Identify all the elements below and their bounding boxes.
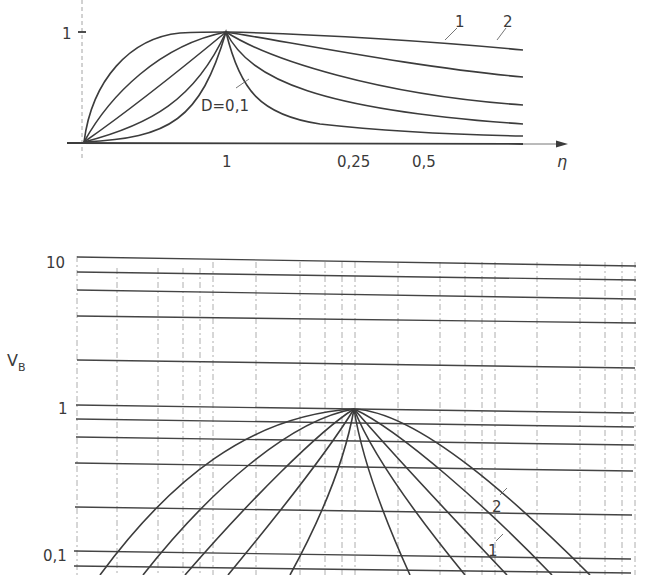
bottom-y-tick-label-1: 1 [58, 400, 68, 418]
bottom-y-axis-subscript: B [18, 361, 26, 374]
bottom-curves [100, 409, 590, 575]
top-x-tick-label-05: 0,5 [412, 153, 436, 171]
bottom-curve-1-leader [496, 534, 503, 541]
top-x-axis-label-eta: η [557, 152, 567, 171]
top-x-tick-label-1: 1 [222, 153, 232, 171]
chart-svg: 1 1 0,25 0,5 η D=0,1 1 2 [0, 0, 665, 575]
bottom-label-curve-1: 1 [488, 542, 498, 560]
bottom-chart: 10 1 0,1 V B 2 1 [7, 254, 636, 575]
top-chart: 1 1 0,25 0,5 η D=0,1 1 2 [62, 0, 568, 171]
top-x-tick-label-025: 0,25 [337, 153, 370, 171]
top-curve-d01 [84, 32, 523, 142]
bottom-y-tick-label-10: 10 [46, 254, 65, 272]
bottom-label-curve-2: 2 [492, 498, 502, 516]
top-label-curve-2: 2 [503, 13, 513, 31]
top-curve-d2 [84, 32, 523, 142]
top-label-curve-1: 1 [455, 13, 465, 31]
top-label-d01: D=0,1 [201, 97, 249, 115]
x-axis-arrow-icon [556, 141, 568, 148]
bottom-y-axis-label: V [7, 351, 18, 370]
top-curve-d025 [84, 32, 523, 142]
figure: 1 1 0,25 0,5 η D=0,1 1 2 [0, 0, 665, 575]
top-y-tick-label-1: 1 [62, 25, 72, 43]
top-curve-d1 [84, 32, 523, 142]
bottom-y-tick-label-01: 0,1 [43, 547, 67, 565]
top-curve-d05 [84, 32, 523, 142]
top-x-axis [67, 143, 523, 144]
